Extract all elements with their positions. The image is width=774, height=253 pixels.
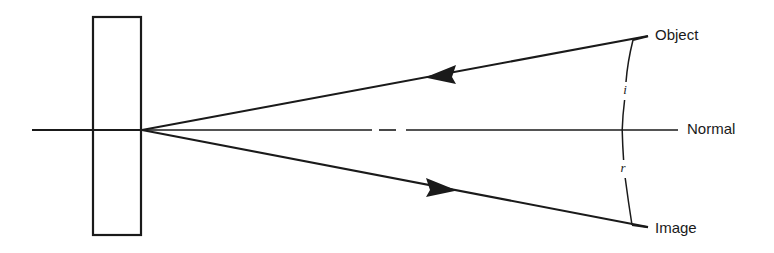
object-label: Object bbox=[655, 26, 699, 43]
angle-of-reflection-label: r bbox=[620, 160, 626, 175]
angle-arc-lower bbox=[625, 178, 632, 225]
incident-ray-arrowhead bbox=[425, 65, 456, 84]
optics-diagram: Object Normal Image i r bbox=[0, 0, 774, 253]
incident-ray bbox=[142, 36, 648, 130]
normal-label: Normal bbox=[687, 120, 735, 137]
image-leader-line bbox=[632, 225, 648, 227]
image-label: Image bbox=[655, 219, 697, 236]
angle-arc-upper bbox=[626, 40, 633, 82]
reflected-ray-arrowhead bbox=[426, 178, 457, 197]
diagram-canvas: Object Normal Image i r bbox=[0, 0, 774, 253]
angle-arc-lower-upper bbox=[622, 130, 623, 160]
reflected-ray bbox=[142, 130, 648, 227]
mirror-slab bbox=[93, 17, 141, 235]
angle-arc-upper-lower bbox=[622, 100, 624, 130]
angle-of-incidence-label: i bbox=[623, 82, 627, 97]
